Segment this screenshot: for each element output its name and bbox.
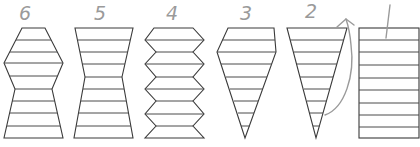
- shape-1-label: [386, 5, 390, 38]
- shape-6-outline: [4, 28, 63, 138]
- shape-6-label: 6: [19, 2, 31, 24]
- shape-4-label: 4: [166, 2, 178, 24]
- curved-arrow-icon: [325, 19, 352, 115]
- ladder-shapes-diagram: 6 5 4 3: [0, 0, 420, 147]
- shape-2: 2: [287, 0, 354, 138]
- shape-1-outline: [359, 28, 419, 138]
- shape-3-outline: [217, 28, 276, 138]
- shape-2-label: 2: [305, 0, 317, 22]
- shape-3: 3: [217, 2, 276, 138]
- shape-4-outline: [145, 28, 204, 138]
- shape-5-outline: [74, 28, 133, 138]
- shape-1: [359, 5, 419, 138]
- arrowhead-icon: [337, 19, 354, 27]
- shape-5: 5: [74, 2, 133, 138]
- shape-2-outline: [287, 28, 347, 138]
- shape-6: 6: [4, 2, 63, 138]
- shape-4: 4: [145, 2, 204, 138]
- shape-5-label: 5: [94, 2, 106, 24]
- shape-3-label: 3: [240, 2, 252, 24]
